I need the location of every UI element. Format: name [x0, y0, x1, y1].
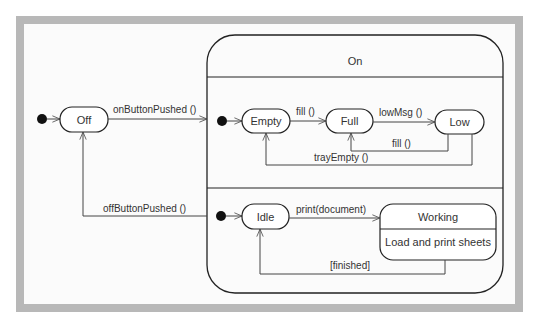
state-low[interactable]: Low — [435, 110, 484, 134]
state-off[interactable]: Off — [60, 107, 108, 132]
transition-off-button-pushed[interactable]: offButtonPushed () — [83, 132, 207, 216]
state-low-label: Low — [449, 116, 469, 128]
initial-state-region-1 — [217, 116, 242, 126]
transition-fill-empty-full[interactable]: fill () — [290, 106, 326, 121]
state-empty[interactable]: Empty — [242, 109, 290, 133]
transition-finished-label: [finished] — [330, 260, 370, 271]
state-full[interactable]: Full — [326, 109, 373, 133]
transition-print-document-label: print(document) — [296, 204, 366, 215]
state-on-label: On — [348, 55, 363, 67]
transition-off-button-pushed-label: offButtonPushed () — [103, 203, 186, 214]
transition-on-button-pushed[interactable]: onButtonPushed () — [108, 104, 207, 119]
initial-state-region-2 — [216, 211, 242, 221]
state-working-activity: Load and print sheets — [385, 236, 491, 248]
initial-state-top — [37, 114, 60, 124]
state-idle[interactable]: Idle — [242, 204, 289, 229]
transition-fill-label-1: fill () — [296, 106, 315, 117]
transition-print-document[interactable]: print(document) — [289, 204, 380, 218]
transition-low-msg-label: lowMsg () — [379, 107, 422, 118]
state-working[interactable]: Working Load and print sheets — [380, 204, 496, 260]
state-off-label: Off — [77, 114, 92, 126]
transition-fill-low-full[interactable]: fill () — [351, 133, 448, 151]
transition-fill-label-2: fill () — [392, 138, 411, 149]
transition-low-msg[interactable]: lowMsg () — [373, 107, 435, 122]
state-diagram: On Off onButtonPushed () offButtonPushed… — [0, 0, 543, 329]
transition-tray-empty[interactable]: trayEmpty () — [266, 133, 472, 165]
state-working-label: Working — [418, 211, 458, 223]
state-empty-label: Empty — [250, 115, 282, 127]
transition-tray-empty-label: trayEmpty () — [314, 152, 368, 163]
state-idle-label: Idle — [257, 211, 275, 223]
transition-on-button-pushed-label: onButtonPushed () — [113, 104, 196, 115]
state-full-label: Full — [341, 115, 359, 127]
